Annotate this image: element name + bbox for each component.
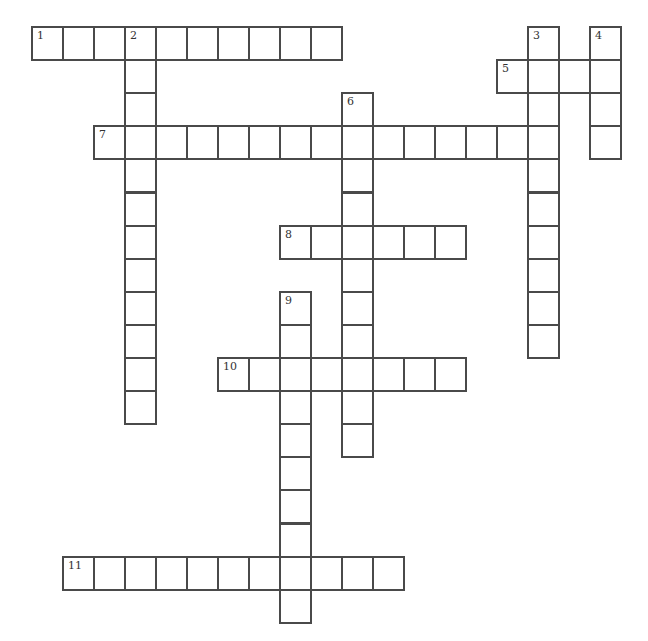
crossword-cell[interactable] bbox=[217, 125, 250, 160]
crossword-cell[interactable] bbox=[341, 225, 374, 260]
crossword-grid: 1234567891011 bbox=[0, 0, 648, 641]
crossword-cell[interactable] bbox=[341, 324, 374, 359]
crossword-cell[interactable]: 2 bbox=[124, 26, 157, 61]
clue-number: 2 bbox=[130, 30, 137, 42]
crossword-cell[interactable] bbox=[310, 225, 343, 260]
crossword-cell[interactable] bbox=[341, 556, 374, 591]
crossword-cell[interactable] bbox=[310, 556, 343, 591]
crossword-cell[interactable] bbox=[124, 390, 157, 425]
crossword-cell[interactable]: 7 bbox=[93, 125, 126, 160]
crossword-cell[interactable] bbox=[279, 390, 312, 425]
crossword-cell[interactable] bbox=[527, 291, 560, 326]
crossword-cell[interactable] bbox=[217, 556, 250, 591]
crossword-cell[interactable] bbox=[527, 158, 560, 193]
crossword-cell[interactable]: 3 bbox=[527, 26, 560, 61]
crossword-cell[interactable] bbox=[341, 158, 374, 193]
crossword-cell[interactable] bbox=[248, 556, 281, 591]
clue-number: 6 bbox=[347, 96, 354, 108]
crossword-cell[interactable] bbox=[124, 192, 157, 227]
crossword-cell[interactable] bbox=[124, 59, 157, 94]
crossword-cell[interactable] bbox=[341, 357, 374, 392]
clue-number: 7 bbox=[99, 129, 106, 141]
crossword-cell[interactable] bbox=[124, 258, 157, 293]
crossword-cell[interactable] bbox=[403, 125, 436, 160]
crossword-cell[interactable] bbox=[279, 324, 312, 359]
crossword-cell[interactable] bbox=[279, 357, 312, 392]
crossword-cell[interactable] bbox=[279, 523, 312, 558]
crossword-cell[interactable] bbox=[589, 59, 622, 94]
crossword-cell[interactable] bbox=[279, 423, 312, 458]
crossword-cell[interactable] bbox=[403, 357, 436, 392]
crossword-cell[interactable]: 11 bbox=[62, 556, 95, 591]
crossword-cell[interactable] bbox=[527, 258, 560, 293]
clue-number: 10 bbox=[223, 361, 237, 373]
crossword-cell[interactable] bbox=[310, 125, 343, 160]
crossword-cell[interactable] bbox=[310, 357, 343, 392]
clue-number: 11 bbox=[68, 560, 82, 572]
crossword-cell[interactable] bbox=[341, 125, 374, 160]
crossword-cell[interactable] bbox=[434, 125, 467, 160]
crossword-cell[interactable] bbox=[527, 125, 560, 160]
crossword-cell[interactable]: 9 bbox=[279, 291, 312, 326]
crossword-cell[interactable]: 1 bbox=[31, 26, 64, 61]
crossword-cell[interactable] bbox=[186, 125, 219, 160]
clue-number: 5 bbox=[502, 63, 509, 75]
crossword-cell[interactable] bbox=[124, 291, 157, 326]
crossword-cell[interactable] bbox=[248, 357, 281, 392]
crossword-cell[interactable] bbox=[93, 26, 126, 61]
crossword-cell[interactable] bbox=[310, 26, 343, 61]
crossword-cell[interactable] bbox=[372, 125, 405, 160]
crossword-cell[interactable] bbox=[589, 125, 622, 160]
crossword-cell[interactable] bbox=[279, 26, 312, 61]
clue-number: 4 bbox=[595, 30, 602, 42]
crossword-cell[interactable] bbox=[186, 556, 219, 591]
crossword-cell[interactable] bbox=[341, 192, 374, 227]
crossword-cell[interactable] bbox=[248, 26, 281, 61]
crossword-cell[interactable] bbox=[465, 125, 498, 160]
crossword-cell[interactable] bbox=[62, 26, 95, 61]
crossword-cell[interactable] bbox=[124, 225, 157, 260]
crossword-cell[interactable] bbox=[558, 59, 591, 94]
crossword-cell[interactable] bbox=[372, 556, 405, 591]
crossword-cell[interactable] bbox=[279, 556, 312, 591]
crossword-cell[interactable] bbox=[186, 26, 219, 61]
crossword-cell[interactable] bbox=[155, 26, 188, 61]
crossword-cell[interactable] bbox=[434, 225, 467, 260]
crossword-cell[interactable] bbox=[217, 26, 250, 61]
crossword-cell[interactable] bbox=[124, 92, 157, 127]
crossword-cell[interactable] bbox=[527, 92, 560, 127]
crossword-cell[interactable] bbox=[124, 556, 157, 591]
crossword-cell[interactable] bbox=[341, 291, 374, 326]
crossword-cell[interactable] bbox=[93, 556, 126, 591]
crossword-cell[interactable] bbox=[279, 125, 312, 160]
crossword-cell[interactable] bbox=[403, 225, 436, 260]
crossword-cell[interactable]: 5 bbox=[496, 59, 529, 94]
clue-number: 1 bbox=[37, 30, 44, 42]
crossword-cell[interactable] bbox=[341, 390, 374, 425]
crossword-cell[interactable] bbox=[124, 158, 157, 193]
crossword-cell[interactable] bbox=[279, 589, 312, 624]
crossword-cell[interactable] bbox=[341, 423, 374, 458]
crossword-cell[interactable] bbox=[341, 258, 374, 293]
crossword-cell[interactable] bbox=[527, 59, 560, 94]
crossword-cell[interactable] bbox=[124, 125, 157, 160]
crossword-cell[interactable] bbox=[589, 92, 622, 127]
crossword-cell[interactable] bbox=[434, 357, 467, 392]
crossword-cell[interactable] bbox=[155, 556, 188, 591]
crossword-cell[interactable]: 8 bbox=[279, 225, 312, 260]
crossword-cell[interactable]: 6 bbox=[341, 92, 374, 127]
crossword-cell[interactable] bbox=[496, 125, 529, 160]
crossword-cell[interactable] bbox=[248, 125, 281, 160]
crossword-cell[interactable] bbox=[124, 324, 157, 359]
crossword-cell[interactable] bbox=[155, 125, 188, 160]
crossword-cell[interactable] bbox=[372, 225, 405, 260]
crossword-cell[interactable] bbox=[527, 324, 560, 359]
crossword-cell[interactable]: 4 bbox=[589, 26, 622, 61]
crossword-cell[interactable] bbox=[279, 489, 312, 524]
crossword-cell[interactable] bbox=[527, 225, 560, 260]
crossword-cell[interactable] bbox=[279, 456, 312, 491]
crossword-cell[interactable] bbox=[124, 357, 157, 392]
crossword-cell[interactable]: 10 bbox=[217, 357, 250, 392]
crossword-cell[interactable] bbox=[527, 192, 560, 227]
crossword-cell[interactable] bbox=[372, 357, 405, 392]
